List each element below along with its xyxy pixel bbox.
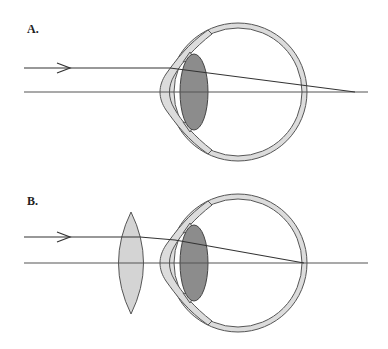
panel-a-label: A.	[27, 22, 39, 36]
panel-b-label: B.	[27, 194, 38, 208]
panel-b: B.	[24, 194, 368, 332]
panel-a: A.	[24, 22, 368, 161]
hyperopia-diagram: A. B.	[0, 0, 388, 349]
